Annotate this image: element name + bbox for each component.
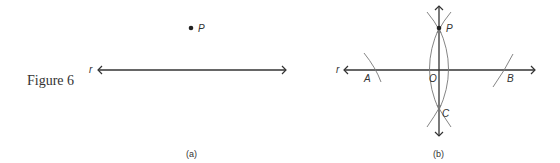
arc-lens-right: [439, 28, 449, 110]
label-p: P: [446, 23, 453, 34]
line-r-label: r: [89, 64, 93, 75]
label-a: A: [363, 73, 371, 84]
panel-b-sublabel: (b): [433, 149, 444, 159]
panel-a: P r (a): [89, 23, 286, 159]
line-r-label-b: r: [336, 64, 340, 75]
arc-lens-left: [430, 28, 440, 110]
panel-b: r P A O B C (b): [336, 6, 535, 159]
figure-diagram: P r (a) r P A O B C: [0, 0, 560, 163]
label-b: B: [507, 73, 514, 84]
label-c: C: [442, 108, 450, 119]
point-p-label: P: [198, 23, 205, 34]
point-p-dot-b: [437, 26, 442, 31]
label-o: O: [429, 73, 437, 84]
point-p-dot: [189, 26, 194, 31]
panel-a-sublabel: (a): [186, 149, 197, 159]
